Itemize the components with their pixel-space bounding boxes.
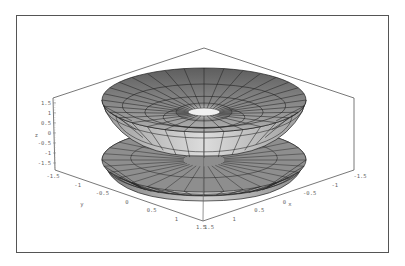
svg-text:-0.5: -0.5	[38, 140, 51, 146]
svg-text:-1: -1	[44, 150, 51, 156]
svg-text:0: 0	[125, 199, 128, 205]
svg-text:-1: -1	[332, 182, 339, 188]
svg-text:y: y	[80, 201, 84, 208]
svg-text:-1.5: -1.5	[353, 173, 366, 179]
svg-text:-1.5: -1.5	[38, 160, 51, 166]
svg-text:x: x	[288, 201, 292, 207]
svg-text:0.5: 0.5	[41, 120, 51, 126]
svg-text:1: 1	[233, 216, 236, 222]
svg-text:1: 1	[175, 216, 178, 222]
svg-text:0: 0	[48, 130, 51, 136]
svg-text:z: z	[35, 132, 38, 138]
svg-text:-1: -1	[74, 182, 81, 188]
svg-text:-0.5: -0.5	[96, 190, 109, 196]
svg-text:1.5: 1.5	[204, 224, 214, 230]
surface-plot: 1.510.50-0.5-1-1.5z-1.5-1-0.500.511.5y1.…	[0, 0, 405, 266]
svg-text:0.5: 0.5	[147, 207, 157, 213]
svg-text:0.5: 0.5	[254, 207, 264, 213]
svg-text:0: 0	[283, 199, 286, 205]
svg-text:1.5: 1.5	[41, 100, 51, 106]
svg-text:1: 1	[48, 110, 51, 116]
svg-text:-0.5: -0.5	[303, 190, 316, 196]
svg-text:-1.5: -1.5	[46, 173, 59, 179]
